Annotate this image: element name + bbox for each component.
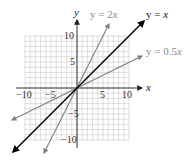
tick-y-5: 5	[70, 56, 75, 67]
line-y-x	[13, 21, 144, 152]
tick-x-10: 10	[122, 89, 132, 100]
tick-y-10: 10	[64, 30, 74, 41]
tick-y-neg5: −5	[68, 108, 79, 119]
tick-y-neg10: −10	[61, 134, 77, 145]
tick-x-5: 5	[100, 89, 105, 100]
label-y-x: y = x	[146, 8, 168, 20]
label-y-2x: y = 2x	[90, 8, 118, 20]
label-y-0.5x: y = 0.5x	[146, 45, 182, 57]
tick-x-neg10: −10	[16, 89, 32, 100]
graph-canvas: x y −10 −5 5 10 10 5 −5 −10 y = 2x y = x…	[0, 0, 190, 160]
y-axis-label: y	[73, 6, 79, 18]
x-axis-label: x	[145, 81, 151, 93]
tick-x-neg5: −5	[45, 89, 56, 100]
